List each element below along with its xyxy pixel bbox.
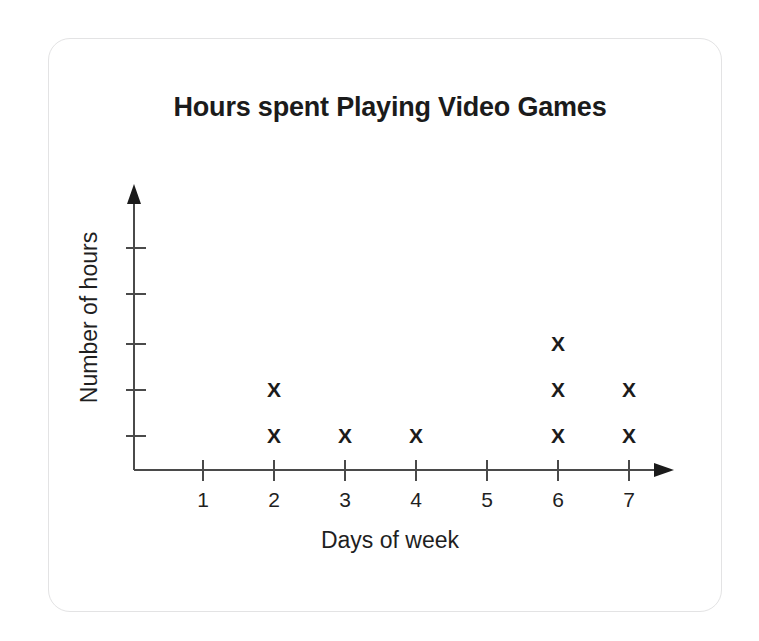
x-tick-label: 4 (396, 488, 436, 512)
data-point-marker: X (259, 424, 289, 448)
data-point-marker: X (543, 332, 573, 356)
data-point-marker: X (543, 378, 573, 402)
plot-axes (0, 0, 759, 641)
chart-figure: Hours spent Playing Video Games Number o… (0, 0, 759, 641)
x-tick-label: 3 (325, 488, 365, 512)
x-tick-label: 7 (609, 488, 649, 512)
data-point-marker: X (259, 378, 289, 402)
data-point-marker: X (614, 424, 644, 448)
page-root: Hours spent Playing Video Games Number o… (0, 0, 759, 641)
x-tick-label: 2 (254, 488, 294, 512)
y-axis-arrowhead (127, 184, 141, 204)
y-axis-ticks (126, 248, 146, 436)
x-tick-label: 5 (467, 488, 507, 512)
x-tick-label: 1 (183, 488, 223, 512)
data-point-marker: X (330, 424, 360, 448)
x-tick-label: 6 (538, 488, 578, 512)
data-point-marker: X (543, 424, 573, 448)
x-axis-arrowhead (654, 463, 674, 477)
data-point-marker: X (401, 424, 431, 448)
data-point-marker: X (614, 378, 644, 402)
